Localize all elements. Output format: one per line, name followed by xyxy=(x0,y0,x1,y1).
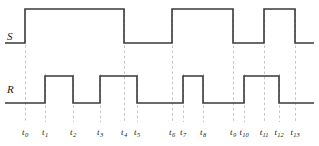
timing-diagram-figure: SR t0t1t2t3t4t5t6t7t8t9t10t11t12t13 xyxy=(0,0,319,146)
gridlines-group xyxy=(26,9,296,122)
time-tick-label-t13: t13 xyxy=(290,128,299,137)
time-tick-label-t5: t5 xyxy=(134,128,140,137)
time-tick-label-t2: t2 xyxy=(70,128,76,137)
signal-label-S: S xyxy=(7,31,13,42)
time-tick-label-t11: t11 xyxy=(260,128,269,137)
time-tick-label-t8: t8 xyxy=(200,128,206,137)
time-tick-label-t4: t4 xyxy=(121,128,127,137)
time-tick-label-t12: t12 xyxy=(274,128,283,137)
waveforms-group xyxy=(5,9,314,103)
time-tick-label-t0: t0 xyxy=(22,128,28,137)
time-tick-label-t6: t6 xyxy=(169,128,175,137)
time-tick-label-t10: t10 xyxy=(239,128,248,137)
signal-label-R: R xyxy=(7,84,14,95)
time-tick-label-t3: t3 xyxy=(97,128,103,137)
time-tick-label-t9: t9 xyxy=(230,128,236,137)
waveform-S xyxy=(5,9,314,43)
waveform-R xyxy=(5,76,314,103)
time-tick-label-t1: t1 xyxy=(42,128,48,137)
time-tick-label-t7: t7 xyxy=(180,128,186,137)
timing-diagram-canvas xyxy=(0,0,319,146)
